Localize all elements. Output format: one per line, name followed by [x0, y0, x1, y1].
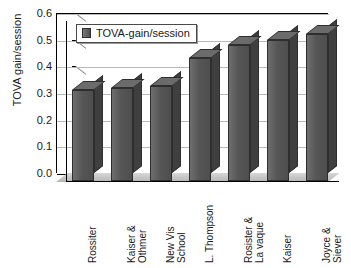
x-axis-label: L. Thompson — [205, 205, 216, 263]
y-axis-tick-group: 0.60.50.40.30.20.10.0 — [20, 13, 52, 173]
x-axis-line — [66, 181, 339, 182]
bar-side-face — [328, 19, 337, 173]
bar-side-face — [133, 73, 142, 173]
y-axis-tick-label: 0.2 — [22, 114, 52, 126]
series-color-swatch — [82, 28, 91, 38]
gridline — [57, 14, 329, 15]
y-axis-tick-label: 0.6 — [22, 7, 52, 19]
bar — [150, 86, 172, 181]
legend-label: TOVA-gain/session — [96, 27, 190, 39]
bar — [267, 40, 289, 181]
bar-side-face — [94, 75, 103, 173]
y-axis-tick-label: 0.4 — [22, 60, 52, 72]
bar-side-face — [172, 71, 181, 173]
y-axis-tick-label: 0.5 — [22, 34, 52, 46]
y-axis-tick-label: 0.0 — [22, 167, 52, 179]
y-axis-tick-label: 0.1 — [22, 140, 52, 152]
x-axis-label: New Vis School — [166, 227, 187, 264]
x-axis-label: Kaiser — [283, 235, 294, 263]
bar-front-face — [306, 34, 328, 181]
bar-side-face — [211, 43, 220, 173]
bar-front-face — [72, 90, 94, 181]
bar-chart: TOVA gain/session 0.60.50.40.30.20.10.0 … — [0, 0, 351, 268]
bar — [189, 58, 211, 181]
bar-front-face — [267, 40, 289, 181]
x-axis-label-group: RossiterKaiser & OthmerNew Vis SchoolL. … — [66, 183, 338, 267]
x-axis-label: Joyce & Siever — [322, 227, 343, 263]
x-axis-label: Rossiter — [88, 226, 99, 263]
bar-front-face — [111, 88, 133, 181]
bar — [72, 90, 94, 181]
bar — [228, 45, 250, 181]
bar — [306, 34, 328, 181]
bar-side-face — [289, 25, 298, 173]
x-axis-label: Rosister & La vaque — [244, 217, 265, 263]
bars-layer — [66, 21, 338, 181]
bar-front-face — [228, 45, 250, 181]
bar-front-face — [150, 86, 172, 181]
legend: TOVA-gain/session — [76, 24, 197, 43]
bar-front-face — [189, 58, 211, 181]
bar — [111, 88, 133, 181]
bar-side-face — [250, 30, 259, 173]
x-axis-label: Kaiser & Othmer — [127, 225, 148, 263]
y-axis-tick-label: 0.3 — [22, 87, 52, 99]
